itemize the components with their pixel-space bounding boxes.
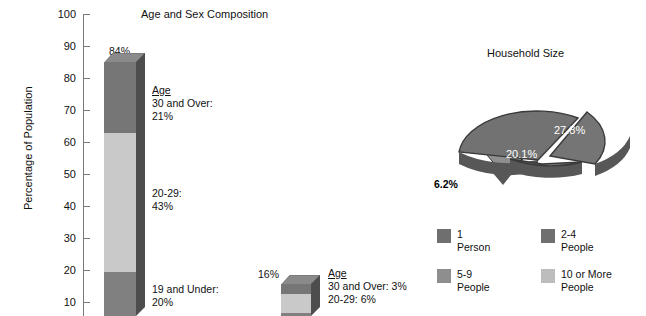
legend-swatch-10-or-more-people (541, 269, 555, 283)
bar1-annotation-2029-line2: 43% (152, 200, 173, 212)
legend-label-1-person-line2: Person (457, 241, 490, 253)
bar2-annotation: Age 30 and Over: 3% 20-29: 6% (328, 267, 407, 306)
legend-label-10-or-more-people-line2: People (561, 281, 594, 293)
bar2-annotation-line2: 20-29: 6% (328, 293, 376, 305)
y-tick-label-80: 80 (50, 72, 76, 84)
y-tick-label-30: 30 (50, 232, 76, 244)
bar2-front-face (281, 284, 311, 316)
bar1-annotation-19-and-under: 19 and Under: 20% (152, 283, 219, 309)
y-tick-mark-30 (84, 238, 90, 239)
legend-label-10-or-more-people: 10 or More People (561, 268, 612, 293)
bar-chart-title: Age and Sex Composition (141, 8, 268, 20)
legend-item-10-or-more-people: 10 or More People (541, 268, 612, 293)
bar1-annotation-heading: Age (152, 84, 171, 96)
y-tick-mark-40 (84, 206, 90, 207)
bar1-annotation-line1: 30 and Over: (152, 97, 213, 109)
legend-label-2-4-people-line1: 2-4 (561, 228, 576, 240)
bar1-segment-19-and-under (104, 272, 136, 316)
bar1-front-face (104, 62, 136, 316)
pie-label-27-8: 27.8% (554, 124, 585, 136)
bar2-segment-30-and-over (281, 284, 311, 294)
y-tick-label-70: 70 (50, 104, 76, 116)
legend-label-2-4-people-line2: People (561, 241, 594, 253)
legend-item-1-person: 1 Person (437, 228, 490, 253)
y-tick-label-20: 20 (50, 264, 76, 276)
legend-item-2-4-people: 2-4 People (541, 228, 594, 253)
y-tick-label-10: 10 (50, 296, 76, 308)
bar1-annotation-20-29: 20-29: 43% (152, 187, 182, 213)
legend-item-5-9-people: 5-9 People (437, 268, 490, 293)
y-tick-mark-70 (84, 110, 90, 111)
legend-swatch-1-person (437, 229, 451, 243)
y-axis-title: Percentage of Population (22, 86, 34, 210)
pie-label-20-1: 20.1% (506, 148, 537, 160)
bar2-segment-20-29 (281, 294, 311, 313)
y-tick-mark-60 (84, 142, 90, 143)
pie-label-46: 46% (490, 96, 512, 108)
y-tick-mark-10 (84, 302, 90, 303)
bar1-annotation-line2: 21% (152, 110, 173, 122)
pie-chart: 46% 27.8% 20.1% (430, 68, 646, 208)
y-tick-label-90: 90 (50, 40, 76, 52)
bar2-annotation-heading: Age (328, 267, 347, 279)
y-tick-label-40: 40 (50, 200, 76, 212)
bar1-segment-30-and-over (104, 62, 136, 133)
y-tick-label-50: 50 (50, 168, 76, 180)
bar1-annotation-30-and-over: Age 30 and Over: 21% (152, 84, 213, 123)
bar1-annotation-2029-line1: 20-29: (152, 187, 182, 199)
y-tick-label-60: 60 (50, 136, 76, 148)
bar2-side-face (311, 275, 322, 316)
pie-slice-10-or-more-people (510, 159, 582, 178)
legend-label-5-9-people-line2: People (457, 281, 490, 293)
bar2-total-label: 16% (258, 268, 279, 280)
y-tick-mark-20 (84, 270, 90, 271)
y-tick-mark-90 (84, 46, 90, 47)
pie-chart-title: Household Size (487, 47, 564, 59)
legend-swatch-2-4-people (541, 229, 555, 243)
y-tick-mark-80 (84, 78, 90, 79)
legend-label-1-person-line1: 1 (457, 228, 463, 240)
bar1-annotation-19-line2: 20% (152, 296, 173, 308)
y-tick-mark-100 (84, 14, 90, 15)
y-tick-label-100: 100 (50, 8, 76, 20)
y-tick-mark-50 (84, 174, 90, 175)
legend-label-5-9-people: 5-9 People (457, 268, 490, 293)
pie-label-6-2: 6.2% (434, 178, 458, 190)
legend-label-5-9-people-line1: 5-9 (457, 268, 472, 280)
bar2-annotation-line1: 30 and Over: 3% (328, 280, 407, 292)
legend-swatch-5-9-people (437, 269, 451, 283)
legend-label-1-person: 1 Person (457, 228, 490, 253)
legend-label-2-4-people: 2-4 People (561, 228, 594, 253)
bar1-annotation-19-line1: 19 and Under: (152, 283, 219, 295)
bar1-side-face (136, 53, 147, 316)
legend-label-10-or-more-people-line1: 10 or More (561, 268, 612, 280)
bar1-segment-20-29 (104, 133, 136, 272)
